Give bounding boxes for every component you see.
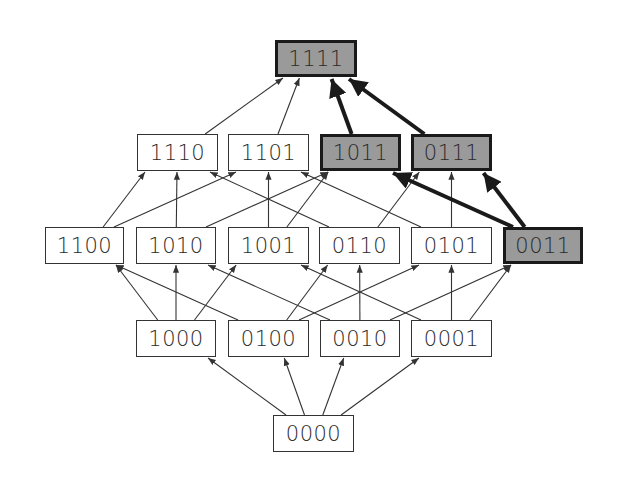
edge-0011-to-0111 xyxy=(484,173,525,227)
node-label: 0001 xyxy=(424,327,479,351)
node-label: 0000 xyxy=(286,422,341,446)
edge-0001-to-1001 xyxy=(301,265,421,320)
edge-0110-to-1110 xyxy=(210,172,329,227)
edge-0100-to-0110 xyxy=(287,265,328,320)
node-label: 0101 xyxy=(424,234,479,258)
node-label: 0100 xyxy=(241,327,296,351)
node-label: 0111 xyxy=(424,141,479,165)
edge-0011-to-1011 xyxy=(393,173,513,227)
node-0001: 0001 xyxy=(411,320,492,357)
node-1000: 1000 xyxy=(136,320,216,357)
node-label: 0110 xyxy=(332,234,387,258)
node-label: 1111 xyxy=(288,47,343,71)
node-label: 0011 xyxy=(515,234,570,258)
node-0111: 0111 xyxy=(411,134,492,171)
node-1101: 1101 xyxy=(228,134,309,171)
node-1010: 1010 xyxy=(136,227,216,264)
node-1011: 1011 xyxy=(320,134,401,171)
node-0101: 0101 xyxy=(411,227,492,264)
edge-0111-to-1111 xyxy=(349,79,424,134)
node-label: 1101 xyxy=(241,141,296,165)
edge-0000-to-1000 xyxy=(208,358,286,415)
edge-0010-to-1010 xyxy=(208,265,330,320)
edge-1110-to-1111 xyxy=(205,78,283,134)
edge-0100-to-1100 xyxy=(116,265,238,320)
edge-1100-to-1101 xyxy=(114,172,236,227)
node-label: 1010 xyxy=(148,234,203,258)
node-label: 1110 xyxy=(150,141,205,165)
edge-0101-to-1101 xyxy=(301,172,421,227)
edge-1000-to-1100 xyxy=(116,265,158,320)
edge-1001-to-1011 xyxy=(287,172,328,227)
node-label: 1001 xyxy=(241,234,296,258)
edge-0000-to-0010 xyxy=(323,358,344,415)
node-1100: 1100 xyxy=(45,227,124,264)
lattice-diagram: 1111111011011011011111001010100101100101… xyxy=(0,0,626,479)
node-0000: 0000 xyxy=(273,415,354,452)
node-0100: 0100 xyxy=(228,320,309,357)
node-0011: 0011 xyxy=(503,227,583,264)
edge-0100-to-0101 xyxy=(299,265,419,320)
node-label: 1000 xyxy=(148,327,203,351)
node-label: 1100 xyxy=(57,234,112,258)
edge-1101-to-1111 xyxy=(278,78,299,134)
edge-1000-to-1001 xyxy=(195,265,237,320)
edge-1010-to-1011 xyxy=(206,172,328,227)
node-1001: 1001 xyxy=(228,227,309,264)
node-label: 1011 xyxy=(333,141,388,165)
edge-1100-to-1110 xyxy=(103,172,145,227)
edge-1011-to-1111 xyxy=(332,79,352,134)
edge-1010-to-1110 xyxy=(176,172,177,227)
edge-0010-to-0011 xyxy=(390,265,511,320)
edge-0001-to-0011 xyxy=(470,265,511,320)
node-0110: 0110 xyxy=(319,227,400,264)
node-1110: 1110 xyxy=(137,134,218,171)
node-0010: 0010 xyxy=(320,320,400,357)
node-1111: 1111 xyxy=(275,40,357,77)
edge-0000-to-0001 xyxy=(341,358,419,415)
edge-0000-to-0100 xyxy=(284,358,304,415)
node-label: 0010 xyxy=(332,327,387,351)
